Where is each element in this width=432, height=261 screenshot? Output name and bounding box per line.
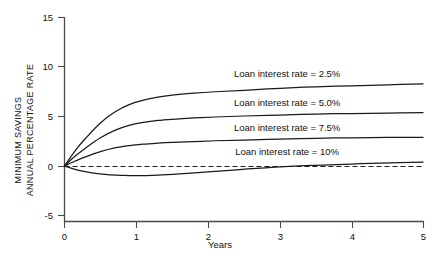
series-label-rate-7-5: Loan interest rate = 7.5% bbox=[234, 122, 341, 133]
x-tick-label-3: 3 bbox=[278, 231, 283, 242]
y-axis-title-line1: MINIMUM SAVINGS bbox=[13, 97, 23, 184]
x-axis-title: Years bbox=[208, 239, 232, 250]
y-axis-title-line2: ANNUAL PERCENTAGE RATE bbox=[25, 64, 35, 196]
y-tick-label-5: 5 bbox=[48, 111, 53, 122]
y-tick-label-15: 15 bbox=[42, 12, 53, 23]
x-tick-label-0: 0 bbox=[62, 231, 67, 242]
x-axis-ticks bbox=[65, 222, 424, 229]
x-tick-label-4: 4 bbox=[350, 231, 355, 242]
series-label-rate-10: Loan interest rate = 10% bbox=[235, 146, 339, 157]
y-tick-label-0: 0 bbox=[48, 161, 53, 172]
chart-figure: 15 10 5 0 -5 0 1 2 3 4 5 Years MINIMUM S… bbox=[0, 0, 432, 261]
y-axis-ticks bbox=[58, 18, 65, 216]
curve-rate-10 bbox=[65, 162, 424, 176]
y-tick-label-10: 10 bbox=[42, 61, 53, 72]
x-tick-label-1: 1 bbox=[134, 231, 139, 242]
series-label-rate-5-0: Loan interest rate = 5.0% bbox=[234, 97, 341, 108]
series-label-rate-2-5: Loan interest rate = 2.5% bbox=[234, 68, 341, 79]
curve-rate-5-0 bbox=[65, 113, 424, 166]
y-tick-label-neg5: -5 bbox=[45, 210, 53, 221]
chart-canvas: 15 10 5 0 -5 0 1 2 3 4 5 Years MINIMUM S… bbox=[0, 0, 432, 261]
x-tick-label-5: 5 bbox=[421, 231, 426, 242]
